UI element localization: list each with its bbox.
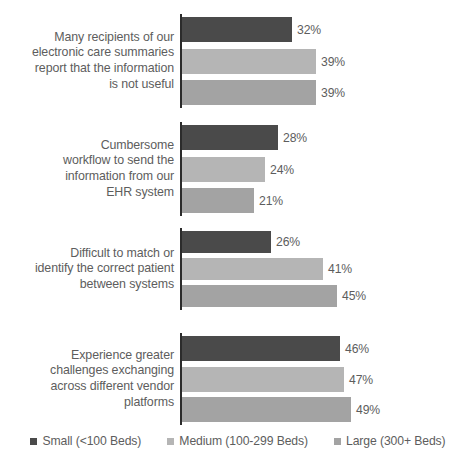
bars-wrapper: 26%41%45% [180, 228, 476, 310]
category-label: Experience greaterchallenges exchanginga… [0, 348, 180, 410]
bar-value-label: 32% [297, 23, 321, 37]
category-label-line: Cumbersome [0, 138, 174, 154]
legend-item[interactable]: Large (300+ Beds) [334, 434, 446, 448]
bar-row: 46% [182, 336, 369, 361]
category-label-line: platforms [0, 395, 174, 411]
bars-wrapper: 46%47%49% [180, 333, 476, 425]
plot-area: Many recipients of ourelectronic care su… [0, 0, 476, 425]
legend-swatch-icon [334, 438, 341, 445]
bars-wrapper: 28%24%21% [180, 122, 476, 216]
grouped-bar-chart: Many recipients of ourelectronic care su… [0, 0, 476, 467]
bar-row: 32% [182, 17, 321, 42]
category-label-line: challenges exchanging [0, 363, 174, 379]
category-label-line: EHR system [0, 185, 174, 201]
legend-label: Small (<100 Beds) [42, 434, 141, 448]
bar[interactable] [182, 285, 337, 307]
bar[interactable] [182, 367, 344, 392]
category-label-line: report that the information [0, 61, 174, 77]
bars-wrapper: 32%39%39% [180, 14, 476, 108]
legend-swatch-icon [167, 438, 174, 445]
legend-swatch-icon [30, 438, 37, 445]
bar-value-label: 46% [345, 342, 369, 356]
bar-row: 45% [182, 285, 366, 307]
bar[interactable] [182, 397, 351, 422]
bar-row: 21% [182, 188, 283, 213]
bar-value-label: 49% [356, 403, 380, 417]
bar-row: 39% [182, 80, 345, 105]
bar-row: 47% [182, 367, 373, 392]
category-label-line: Many recipients of our [0, 30, 174, 46]
bar-value-label: 39% [321, 55, 345, 69]
category-label-line: is not useful [0, 77, 174, 93]
bar-group: Experience greaterchallenges exchanginga… [0, 333, 476, 425]
category-label-line: Difficult to match or [0, 246, 174, 262]
bar[interactable] [182, 49, 316, 74]
bar-value-label: 28% [283, 131, 307, 145]
bar[interactable] [182, 125, 278, 150]
bar-value-label: 21% [259, 194, 283, 208]
bar-row: 28% [182, 125, 307, 150]
bar[interactable] [182, 231, 271, 253]
legend-label: Medium (100-299 Beds) [179, 434, 308, 448]
bar-row: 24% [182, 157, 294, 182]
legend-item[interactable]: Medium (100-299 Beds) [167, 434, 308, 448]
bar-group: Difficult to match oridentify the correc… [0, 228, 476, 310]
bar[interactable] [182, 80, 316, 105]
category-label: Many recipients of ourelectronic care su… [0, 30, 180, 92]
category-label-line: workflow to send the [0, 153, 174, 169]
bar-value-label: 41% [328, 262, 352, 276]
bar-value-label: 45% [342, 289, 366, 303]
category-label: Difficult to match oridentify the correc… [0, 246, 180, 293]
bar[interactable] [182, 188, 254, 213]
bar-value-label: 47% [349, 373, 373, 387]
bar-group: Many recipients of ourelectronic care su… [0, 14, 476, 108]
category-label-line: Experience greater [0, 348, 174, 364]
legend-item[interactable]: Small (<100 Beds) [30, 434, 141, 448]
bar-value-label: 39% [321, 86, 345, 100]
category-label-line: between systems [0, 277, 174, 293]
bar-row: 39% [182, 49, 345, 74]
chart-legend: Small (<100 Beds)Medium (100-299 Beds)La… [0, 434, 476, 448]
category-label-line: information from our [0, 169, 174, 185]
category-label: Cumbersomeworkflow to send theinformatio… [0, 138, 180, 200]
bar-row: 49% [182, 397, 380, 422]
bar-group: Cumbersomeworkflow to send theinformatio… [0, 122, 476, 216]
bar-value-label: 24% [270, 163, 294, 177]
bar[interactable] [182, 17, 292, 42]
bar[interactable] [182, 258, 323, 280]
category-label-line: electronic care summaries [0, 45, 174, 61]
bar[interactable] [182, 157, 265, 182]
bar-row: 26% [182, 231, 300, 253]
bar-row: 41% [182, 258, 352, 280]
bar-value-label: 26% [276, 235, 300, 249]
category-label-line: identify the correct patient [0, 261, 174, 277]
legend-label: Large (300+ Beds) [346, 434, 446, 448]
bar[interactable] [182, 336, 340, 361]
category-label-line: across different vendor [0, 379, 174, 395]
